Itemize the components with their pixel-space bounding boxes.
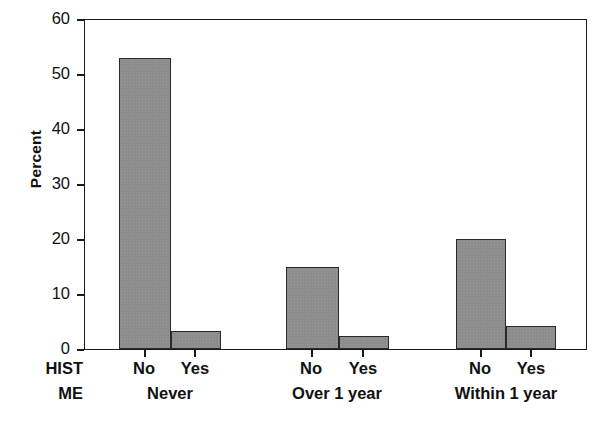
bar-chart-figure: Percent 0 10 20 30 40 50 60 bbox=[0, 0, 602, 421]
x-axis-sublabel-over1year-yes: Yes bbox=[349, 359, 377, 378]
axis-row-variable-me: ME bbox=[3, 384, 83, 403]
x-axis-sublabel-never-no: No bbox=[133, 359, 155, 378]
x-axis-sublabel-over1year-no: No bbox=[300, 359, 322, 378]
plot-area bbox=[84, 19, 587, 350]
x-axis-group-label-never: Never bbox=[147, 384, 193, 403]
x-axis-tick-mark-never-no bbox=[144, 350, 146, 357]
y-axis-tick-label-10: 10 bbox=[52, 284, 70, 303]
y-axis-tick-label-30: 30 bbox=[52, 174, 70, 193]
x-axis-tick-mark-within1year-no bbox=[480, 350, 482, 357]
x-axis-sublabel-within1year-no: No bbox=[469, 359, 491, 378]
x-axis-tick-mark-never-yes bbox=[194, 350, 196, 357]
y-axis-tick-mark-40 bbox=[77, 129, 84, 131]
x-axis-tick-mark-over1year-yes bbox=[362, 350, 364, 357]
y-axis-tick-mark-50 bbox=[77, 74, 84, 76]
y-axis-tick-mark-20 bbox=[77, 239, 84, 241]
y-axis-tick-label-50: 50 bbox=[52, 64, 70, 83]
axis-row-variable-hist: HIST bbox=[3, 359, 83, 378]
bar-within1year-no bbox=[456, 239, 506, 349]
bar-never-yes bbox=[171, 331, 221, 349]
y-axis-tick-label-60: 60 bbox=[52, 9, 70, 28]
x-axis-tick-mark-over1year-no bbox=[311, 350, 313, 357]
x-axis-group-label-over1year: Over 1 year bbox=[292, 384, 382, 403]
bar-over1year-yes bbox=[339, 336, 389, 349]
bar-within1year-yes bbox=[506, 326, 556, 349]
x-axis-tick-mark-within1year-yes bbox=[530, 350, 532, 357]
x-axis-sublabel-within1year-yes: Yes bbox=[517, 359, 545, 378]
y-axis-tick-mark-10 bbox=[77, 294, 84, 296]
x-axis-sublabel-never-yes: Yes bbox=[181, 359, 209, 378]
y-axis-tick-mark-30 bbox=[77, 184, 84, 186]
y-axis-label: Percent bbox=[27, 104, 45, 214]
x-axis-group-label-within1year: Within 1 year bbox=[455, 384, 558, 403]
y-axis-tick-label-40: 40 bbox=[52, 119, 70, 138]
bar-never-no bbox=[119, 58, 171, 349]
y-axis-tick-label-0: 0 bbox=[61, 339, 70, 358]
bar-over1year-no bbox=[286, 267, 339, 349]
y-axis-tick-label-20: 20 bbox=[52, 229, 70, 248]
y-axis-tick-mark-0 bbox=[77, 349, 84, 351]
y-axis-tick-mark-60 bbox=[77, 19, 84, 21]
